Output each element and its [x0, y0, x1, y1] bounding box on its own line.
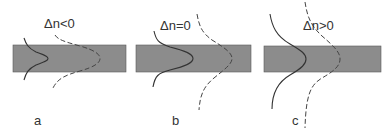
panel-a: Δn<0 a [13, 16, 126, 128]
condition-label-a: Δn<0 [44, 16, 75, 31]
panel-caption-c: c [292, 113, 299, 128]
panel-caption-a: a [34, 113, 42, 128]
panel-b: Δn=0 b [136, 14, 251, 128]
condition-label-c: Δn>0 [303, 18, 334, 33]
waveguide-mode-diagram: Δn<0 a Δn=0 b Δn>0 c [0, 0, 391, 133]
panel-c: Δn>0 c [264, 2, 381, 128]
waveguide-band-c [264, 46, 381, 72]
condition-label-b: Δn=0 [160, 18, 191, 33]
panel-caption-b: b [172, 113, 179, 128]
waveguide-band-a [13, 45, 126, 72]
